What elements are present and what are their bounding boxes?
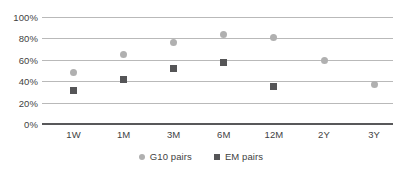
- legend-item-g10-pairs: G10 pairs: [139, 152, 192, 162]
- x-tick-label-1m: 1M: [102, 130, 146, 140]
- x-tick-label-1w: 1W: [52, 130, 96, 140]
- y-tick-label: 40%: [0, 77, 38, 87]
- x-tick-label-6m: 6M: [202, 130, 246, 140]
- legend-label: EM pairs: [225, 152, 263, 162]
- x-tick-label-3y: 3Y: [352, 130, 396, 140]
- circle-marker-icon: [139, 154, 145, 160]
- gridline-40: [42, 81, 393, 82]
- y-tick-label: 60%: [0, 56, 38, 66]
- legend-label: G10 pairs: [150, 152, 192, 162]
- gridline-80: [42, 38, 393, 39]
- data-point-g10-3y: [371, 81, 378, 88]
- chart-legend: G10 pairs EM pairs: [0, 152, 402, 162]
- data-point-em-12m: [270, 83, 277, 90]
- data-point-g10-6m: [220, 31, 227, 38]
- data-point-g10-1w: [70, 69, 77, 76]
- x-tick-label-12m: 12M: [252, 130, 296, 140]
- data-point-em-6m: [220, 59, 227, 66]
- data-point-em-1w: [70, 87, 77, 94]
- data-point-g10-12m: [270, 34, 277, 41]
- plot-area: [42, 17, 393, 124]
- legend-item-em-pairs: EM pairs: [214, 152, 263, 162]
- data-point-g10-1m: [120, 51, 127, 58]
- gridline-60: [42, 60, 393, 61]
- gridline-100: [42, 17, 393, 18]
- square-marker-icon: [214, 154, 220, 160]
- y-tick-label: 80%: [0, 34, 38, 44]
- scatter-chart: 100% 80% 60% 40% 20% 0% 1W 1M 3M 6M 12M …: [0, 0, 402, 174]
- x-tick-label-2y: 2Y: [302, 130, 346, 140]
- gridline-20: [42, 103, 393, 104]
- x-axis-line: [42, 123, 393, 125]
- data-point-em-3m: [170, 65, 177, 72]
- data-point-g10-2y: [321, 57, 328, 64]
- data-point-em-1m: [120, 76, 127, 83]
- y-tick-label: 0%: [0, 120, 38, 130]
- y-tick-label: 100%: [0, 13, 38, 23]
- data-point-g10-3m: [170, 39, 177, 46]
- x-tick-label-3m: 3M: [152, 130, 196, 140]
- y-tick-label: 20%: [0, 99, 38, 109]
